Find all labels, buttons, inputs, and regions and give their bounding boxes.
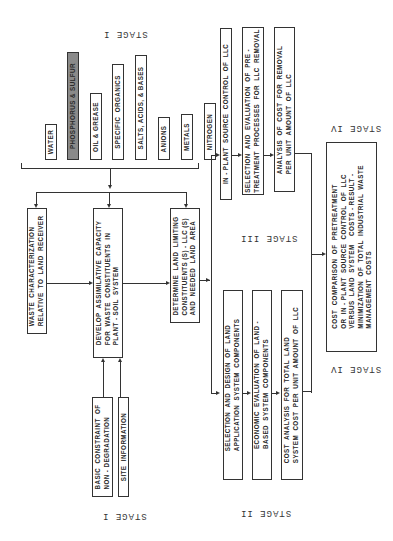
constituent-water: WATER [45, 124, 57, 160]
box-label: COST ANALYSIS FOR TOTAL LAND SYSTEM COST… [283, 307, 300, 463]
in-plant-control-box: IN - PLANT SOURCE CONTROL OF LLC [220, 28, 232, 200]
constituent-label: SPECIFIC ORGANICS [114, 75, 123, 149]
box-label: DEVELOP ASSIMILATIVE CAPACITY FOR WASTE … [95, 221, 121, 345]
stage-1-bottom-label: STAGE I [102, 511, 147, 521]
connector-line [103, 362, 104, 398]
constituent-label: PHOSPHORUS & SULFUR [69, 63, 78, 149]
develop-capacity-box: DEVELOP ASSIMILATIVE CAPACITY FOR WASTE … [93, 208, 123, 358]
arrow-up-icon [118, 358, 122, 362]
arrow-right-icon [166, 281, 170, 285]
analysis-cost-box: ANALYSIS OF COST FOR REMOVAL PER UNIT AM… [274, 27, 295, 192]
constituent-label: METALS [183, 123, 192, 151]
connector-line [295, 153, 311, 154]
distribution-line [36, 192, 186, 193]
arrow-right-icon [89, 281, 93, 285]
constituent-oil-grease: OIL & GREASE [90, 93, 102, 160]
stage-3-label: STAGE III [240, 233, 298, 243]
drop-line [186, 192, 187, 204]
constituent-label: NITROGEN [206, 113, 215, 149]
box-label: DETERMINE LAND LIMITING CONSTITUENTS (S)… [172, 216, 198, 315]
stage-2-label: STAGE II [240, 508, 291, 518]
connector-line [303, 391, 312, 392]
constituent-salts-acids-bases: SALTS, ACIDS, & BASES [135, 55, 147, 160]
basic-constraint-box: BASIC CONSTRAINT OF NON - DEGRADATION [92, 397, 113, 497]
box-label: SITE INFORMATION [119, 413, 128, 481]
constituent-anions: ANIONS [158, 117, 170, 160]
arrow-right-icon [247, 391, 251, 395]
stage-bracket-line [211, 155, 212, 393]
box-label: IN - PLANT SOURCE CONTROL OF LLC [222, 44, 231, 184]
constituent-phosphorus-sulfur: PHOSPHORUS & SULFUR [67, 52, 79, 160]
drop-line [36, 192, 37, 204]
selection-design-box: SELECTION AND DESIGN OF LAND APPLICATION… [223, 290, 243, 480]
box-label: BASIC CONSTRAINT OF NON - DEGRADATION [94, 404, 111, 489]
selection-evaluation-box: SELECTION AND EVALUATION OF PRE - TREATM… [242, 27, 264, 195]
arrow-right-icon [206, 278, 210, 282]
drop-line [109, 192, 110, 204]
box-label: SELECTION AND EVALUATION OF PRE - TREATM… [244, 29, 261, 193]
box-label: ANALYSIS OF COST FOR REMOVAL PER UNIT AM… [276, 45, 293, 174]
connector-line [123, 283, 166, 284]
constituent-specific-organics: SPECIFIC ORGANICS [112, 64, 124, 160]
stage-1-top-label: STAGE I [103, 29, 148, 39]
constituent-metals: METALS [181, 114, 193, 160]
cost-comparison-box: COST COMPARISON OF PRETREATMENT OR IN - … [326, 142, 377, 352]
stage-bracket-line [311, 153, 312, 393]
box-label: WASTE CHARACTERIZATION RELATIVE TO LAND … [28, 216, 45, 327]
arrow-right-icon [216, 391, 220, 395]
cost-analysis-box: COST ANALYSIS FOR TOTAL LAND SYSTEM COST… [281, 290, 303, 480]
connector-line [120, 362, 121, 398]
stage-4-top-label: STAGE IV [330, 123, 381, 133]
economic-evaluation-box: ECONOMIC EVALUATION OF LAND - BASED SYST… [252, 290, 272, 480]
constituent-label: SALTS, ACIDS, & BASES [137, 66, 146, 149]
arrow-down-icon [108, 185, 112, 189]
constituent-label: ANIONS [160, 125, 169, 152]
constituent-nitrogen: NITROGEN [204, 103, 216, 160]
box-label: SELECTION AND DESIGN OF LAND APPLICATION… [224, 319, 241, 452]
waste-characterization-box: WASTE CHARACTERIZATION RELATIVE TO LAND … [27, 208, 47, 334]
constituent-label: WATER [47, 130, 56, 154]
arrow-up-icon [101, 358, 105, 362]
box-label: ECONOMIC EVALUATION OF LAND - BASED SYST… [253, 321, 270, 449]
site-information-box: SITE INFORMATION [118, 397, 129, 497]
connector-line [47, 283, 89, 284]
stage-4-bottom-label: STAGE IV [330, 364, 381, 374]
determine-llc-box: DETERMINE LAND LIMITING CONSTITUENTS (S)… [170, 208, 200, 323]
constituent-label: OIL & GREASE [92, 102, 101, 152]
box-label: COST COMPARISON OF PRETREATMENT OR IN - … [330, 165, 373, 329]
arrow-right-icon [276, 391, 280, 395]
